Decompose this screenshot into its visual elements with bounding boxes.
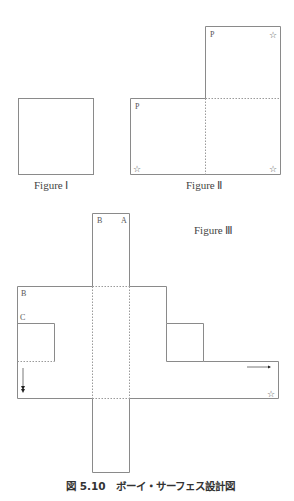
star-icon: ☆ (133, 164, 141, 174)
strip-bottom (93, 399, 130, 473)
figure-1-square (19, 99, 94, 175)
figure-2-outline (131, 27, 281, 175)
figure-2-caption: Figure Ⅱ (186, 179, 222, 191)
figure-3: Figure Ⅲ B A B C ☆ (18, 214, 279, 473)
figure-1: Figure Ⅰ (19, 99, 94, 192)
label-p-left: P (135, 102, 140, 111)
figure-caption: 図 5.10 ボーイ・サーフェス設計図 (66, 480, 235, 492)
figure-2: P ☆ P ☆ ☆ Figure Ⅱ (131, 27, 281, 192)
figure-1-caption: Figure Ⅰ (34, 179, 68, 191)
c-flap (18, 324, 55, 362)
star-icon: ☆ (269, 30, 277, 40)
boy-surface-diagram: Figure Ⅰ P ☆ P ☆ ☆ Figure Ⅱ Figure Ⅲ B A (0, 0, 294, 501)
arrow-right-icon (247, 366, 271, 369)
label-p-top: P (210, 30, 215, 39)
arrow-down-icon (21, 368, 25, 393)
band-right-outline (130, 287, 279, 399)
label-b-top: B (97, 216, 102, 225)
label-c-left: C (20, 313, 25, 322)
star-icon: ☆ (269, 164, 277, 174)
label-a-top: A (121, 216, 127, 225)
label-b-left: B (21, 289, 26, 298)
star-icon: ☆ (267, 389, 275, 399)
figure-3-caption: Figure Ⅲ (194, 224, 233, 236)
